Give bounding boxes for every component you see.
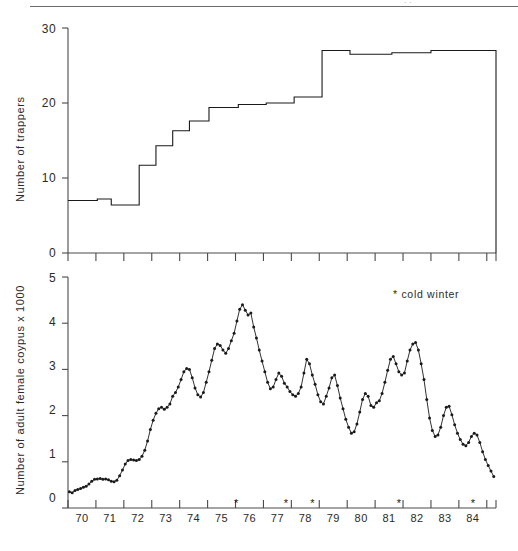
coypu-ytick-2: 2	[30, 403, 56, 417]
trappers-y-axis-label: Number of trappers	[14, 74, 26, 224]
trappers-ytick-20: 20	[30, 96, 56, 110]
coypu-plot: *****	[0, 264, 518, 551]
svg-text:*: *	[397, 497, 402, 509]
coypu-xtick-74: 74	[181, 512, 207, 524]
coypu-ytick-4: 4	[30, 315, 56, 329]
coypu-series-markers	[68, 303, 495, 494]
panel-trappers: Number of trappers 30 20 10 0	[0, 14, 518, 264]
svg-text:*: *	[284, 497, 289, 509]
legend-cold-winter: * cold winter	[393, 288, 459, 300]
legend-text: cold winter	[401, 288, 459, 300]
coypu-xtick-73: 73	[153, 512, 179, 524]
trappers-axes	[68, 28, 496, 253]
coypu-ytick-3: 3	[30, 359, 56, 373]
coypu-xtick-72: 72	[125, 512, 151, 524]
coypu-xtick-77: 77	[264, 512, 290, 524]
trappers-step-line	[68, 51, 496, 254]
coypu-y-axis-label: Number of adult female coypus x 1000	[14, 280, 26, 500]
trappers-ytick-30: 30	[30, 22, 56, 36]
coypu-xtick-81: 81	[376, 512, 402, 524]
coypu-ytick-0: 0	[30, 491, 56, 505]
coypu-xtick-83: 83	[432, 512, 458, 524]
coypu-xtick-76: 76	[236, 512, 262, 524]
coypu-y-ticks	[62, 277, 68, 508]
coypu-xtick-79: 79	[320, 512, 346, 524]
coypu-xtick-78: 78	[292, 512, 318, 524]
svg-text:*: *	[310, 497, 315, 509]
figure-container: Number of trappers 30 20 10 0 Number of …	[0, 0, 518, 551]
coypu-x-ticks	[68, 500, 496, 508]
coypu-xtick-82: 82	[404, 512, 430, 524]
coypu-xtick-71: 71	[97, 512, 123, 524]
trappers-y-ticks	[62, 28, 68, 253]
coypu-series-line	[69, 305, 493, 493]
svg-text:*: *	[234, 497, 239, 509]
coypu-axes	[68, 277, 496, 508]
coypu-xtick-75: 75	[209, 512, 235, 524]
coypu-ytick-5: 5	[30, 271, 56, 285]
trappers-ytick-0: 0	[30, 246, 56, 260]
trappers-ytick-10: 10	[30, 171, 56, 185]
coypu-xtick-84: 84	[460, 512, 486, 524]
coypu-ytick-1: 1	[30, 447, 56, 461]
coypu-cold-winter-markers: *****	[234, 497, 476, 509]
coypu-xtick-80: 80	[348, 512, 374, 524]
trappers-plot	[0, 14, 518, 264]
coypu-xtick-70: 70	[69, 512, 95, 524]
svg-text:*: *	[471, 497, 476, 509]
panel-coypu: Number of adult female coypus x 1000 5 4…	[0, 264, 518, 551]
trappers-x-ticks	[68, 253, 496, 261]
